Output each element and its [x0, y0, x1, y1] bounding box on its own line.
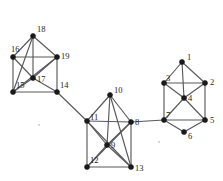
- graph-node-9[interactable]: [105, 143, 110, 148]
- graph-node-13[interactable]: [129, 165, 134, 170]
- graph-node-15[interactable]: [11, 90, 16, 95]
- graph-edge-18-19: [33, 36, 57, 57]
- graph-node-5[interactable]: [203, 118, 208, 123]
- graph-node-1[interactable]: [180, 60, 185, 65]
- graph-node-6[interactable]: [182, 130, 187, 135]
- graph-node-label-11: 11: [90, 113, 98, 122]
- graph-node-label-14: 14: [60, 81, 69, 90]
- graph-node-label-13: 13: [135, 164, 144, 173]
- graph-edge-16-17: [13, 57, 33, 78]
- graph-edge-1-2: [182, 62, 205, 83]
- graph-node-label-16: 16: [11, 45, 20, 54]
- graph-node-18[interactable]: [31, 34, 36, 39]
- graph-node-14[interactable]: [55, 90, 60, 95]
- graph-edge-6-7: [164, 120, 184, 132]
- graph-node-8[interactable]: [129, 120, 134, 125]
- speck-left: [38, 124, 40, 126]
- graph-canvas: [0, 0, 223, 181]
- graph-node-label-15: 15: [16, 81, 25, 90]
- graph-node-label-7: 7: [166, 111, 170, 120]
- graph-node-19[interactable]: [55, 55, 60, 60]
- graph-node-4[interactable]: [182, 96, 187, 101]
- graph-node-label-8: 8: [135, 118, 139, 127]
- graph-node-label-1: 1: [187, 53, 191, 62]
- node-layer: [11, 34, 208, 170]
- graph-node-label-6: 6: [188, 132, 192, 141]
- graph-node-label-3: 3: [166, 74, 170, 83]
- graph-edge-1-4: [182, 62, 184, 98]
- graph-node-label-9: 9: [111, 141, 115, 150]
- graph-node-label-17: 17: [37, 75, 46, 84]
- graph-node-10[interactable]: [108, 93, 113, 98]
- graph-node-2[interactable]: [203, 81, 208, 86]
- graph-node-label-18: 18: [37, 25, 46, 34]
- graph-figure: 12345678910111213141516171819: [0, 0, 223, 181]
- graph-node-label-19: 19: [61, 52, 70, 61]
- graph-node-16[interactable]: [11, 55, 16, 60]
- graph-node-label-2: 2: [210, 78, 214, 87]
- graph-node-11[interactable]: [85, 119, 90, 124]
- graph-node-label-12: 12: [90, 156, 99, 165]
- graph-node-12[interactable]: [85, 165, 90, 170]
- graph-node-label-10: 10: [114, 86, 123, 95]
- graph-edge-11-14: [57, 92, 87, 121]
- graph-node-17[interactable]: [31, 76, 36, 81]
- graph-edge-9-10: [107, 95, 110, 145]
- graph-edge-3-4: [164, 83, 184, 98]
- graph-edge-8-10: [110, 95, 131, 122]
- edge-layer: [13, 36, 205, 167]
- speck-right: [158, 141, 160, 143]
- graph-node-label-4: 4: [188, 94, 192, 103]
- graph-node-label-5: 5: [210, 116, 214, 125]
